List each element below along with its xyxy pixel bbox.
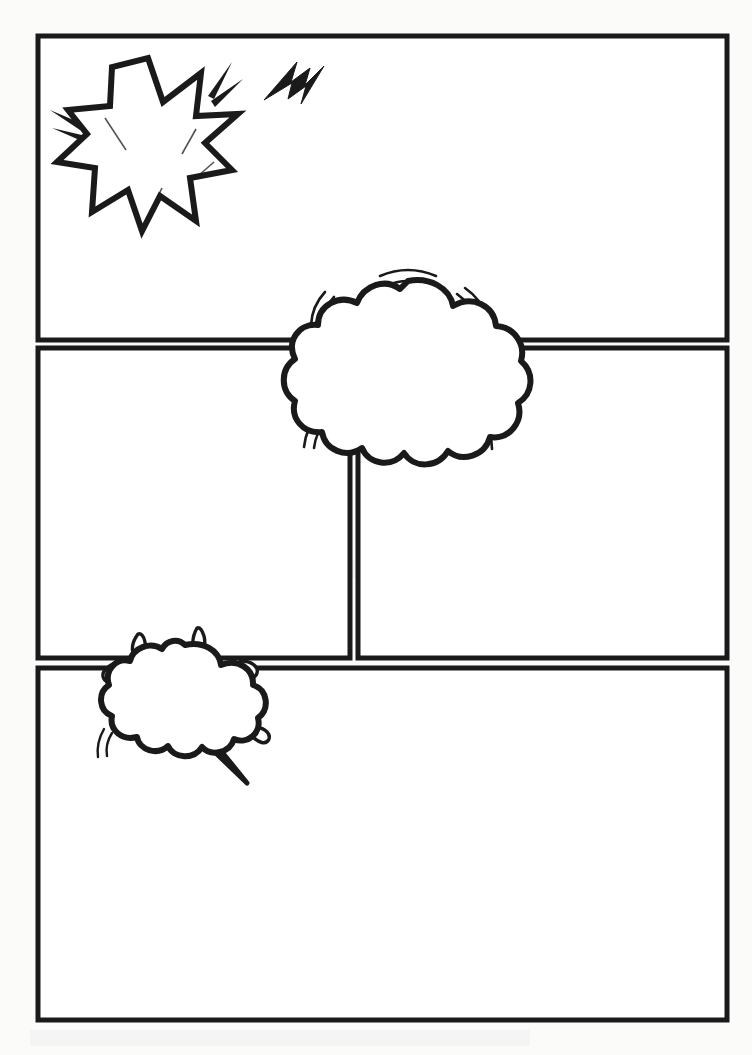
comic-page-canvas — [0, 0, 752, 1055]
comic-page: Comic Book Page Template Page 1 4 panels… — [0, 0, 752, 1055]
